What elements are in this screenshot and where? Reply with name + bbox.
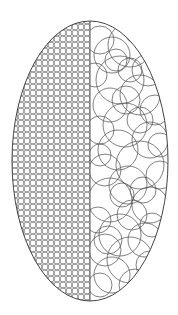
large-overlapping-circles-pattern [83, 16, 174, 301]
split-ellipse-figure [0, 0, 178, 315]
small-circle-grid-pattern [6, 18, 90, 306]
